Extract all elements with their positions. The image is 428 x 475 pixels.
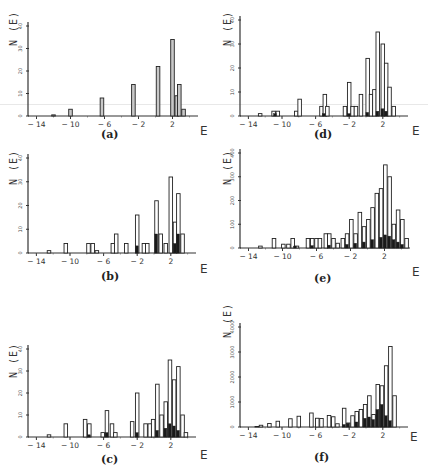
bar-total [64, 424, 68, 437]
bar-total [95, 251, 99, 253]
bar-total [255, 427, 259, 428]
x-tick-label: − 14 [27, 120, 45, 129]
bar-total [177, 367, 181, 437]
x-tick-label: − 6 [97, 441, 111, 450]
bar-total [358, 212, 362, 248]
bar-filled [379, 237, 382, 248]
bar-filled [274, 114, 277, 116]
bar-filled [363, 418, 366, 427]
y-tick-label: 0 [229, 114, 235, 117]
bar-total [169, 177, 173, 253]
x-tick-label: 2 [380, 431, 385, 440]
bar-total [343, 106, 347, 116]
bar-total [359, 410, 363, 428]
bar-total [336, 424, 340, 427]
bar-filled [135, 246, 138, 253]
bars [255, 347, 396, 428]
bar-total [130, 422, 134, 437]
bar-filled [347, 114, 350, 116]
bar-filled [380, 405, 383, 428]
x-tick-label: − 14 [239, 431, 257, 440]
x-tick-label: 2 [170, 120, 175, 129]
bar-filled [396, 242, 399, 248]
bar-total [359, 94, 363, 116]
y-tick-label: 2000 [229, 371, 235, 384]
y-tick-label: 100 [229, 219, 235, 229]
bar-total [310, 413, 314, 427]
y-tick-label: 20 [17, 390, 23, 396]
y-tick-label: 20 [229, 65, 235, 71]
x-tick-label: − 10 [273, 431, 291, 440]
y-axis-label: N (E) [222, 150, 233, 185]
bar-total [52, 115, 56, 116]
bar-filled [342, 425, 345, 428]
x-tick-label: − 2 [342, 431, 356, 440]
bar-filled [384, 111, 387, 116]
bars [52, 40, 186, 117]
bar-total [83, 419, 87, 437]
bars [259, 165, 409, 248]
x-tick-label: 2 [168, 257, 173, 266]
y-tick-label: 0 [17, 114, 23, 117]
bar-filled [164, 428, 167, 437]
bar-filled [173, 244, 176, 254]
bar-filled [345, 244, 348, 248]
bar-total [342, 408, 346, 427]
x-tick-label: − 10 [61, 441, 79, 450]
bar-total [389, 347, 393, 428]
bar-total [268, 424, 272, 428]
bar-total [64, 244, 68, 254]
bar-total [306, 239, 310, 249]
bar-total [351, 416, 355, 427]
caption-d: (d) [314, 128, 332, 141]
bars [47, 360, 187, 437]
bar-total [146, 244, 150, 254]
bar-total [125, 244, 129, 254]
bar-total [297, 416, 301, 427]
caption-c: (c) [101, 453, 118, 466]
bar-filled [168, 424, 171, 437]
caption-e: (e) [314, 272, 331, 285]
bar-filled [366, 112, 369, 116]
bar-total [132, 85, 136, 117]
x-tick-label: − 10 [273, 120, 291, 129]
bar-total [289, 419, 293, 427]
bar-total [326, 106, 330, 116]
bar-total [287, 244, 291, 248]
bar-total [151, 419, 155, 437]
bar-filled [177, 430, 180, 437]
y-tick-label: 0 [229, 246, 235, 249]
caption-b: (b) [101, 270, 119, 283]
bar-total [181, 234, 185, 253]
bar-total [405, 239, 409, 249]
x-tick-label: − 2 [342, 120, 356, 129]
bar-total [298, 99, 302, 116]
bar-total [354, 106, 358, 116]
bar-filled [384, 235, 387, 248]
x-tick-label: − 6 [97, 257, 111, 266]
bar-total [258, 114, 262, 116]
y-axis-label: N (E) [222, 303, 233, 338]
caption-a: (a) [101, 128, 119, 141]
caption-f: (f) [314, 451, 329, 464]
bar-filled [135, 433, 138, 437]
y-tick-label: 0 [229, 425, 235, 428]
bar-filled [88, 435, 91, 437]
bar-filled [389, 421, 392, 427]
bar-total [401, 220, 405, 249]
bar-total [341, 239, 345, 249]
bars [47, 177, 184, 253]
y-tick-label: 10 [17, 412, 23, 418]
bar-total [114, 234, 118, 253]
y-tick-label: 20 [17, 68, 23, 74]
bar-filled [177, 234, 180, 253]
bar-total [320, 419, 324, 428]
x-tick-label: 2 [168, 441, 173, 450]
bar-filled [372, 420, 375, 428]
y-tick-label: 10 [17, 90, 23, 96]
histogram-f: 01000200030004000− 14− 10− 6− 22 [214, 325, 428, 465]
x-tick-label: − 2 [132, 120, 146, 129]
y-axis-label: N (E) [8, 11, 19, 46]
bar-total [276, 421, 280, 427]
bar-total [388, 87, 392, 116]
